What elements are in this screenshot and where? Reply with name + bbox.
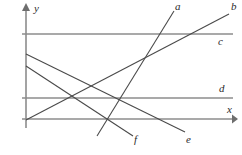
x-axis-label: x: [227, 104, 232, 115]
line-diagram-figure: y x a b c d e f: [0, 0, 242, 155]
line-label-d: d: [219, 83, 225, 94]
line-label-e: e: [186, 134, 191, 145]
y-axis-arrow-icon: [22, 3, 30, 11]
x-axis-arrow-icon: [232, 115, 238, 124]
line-label-a: a: [175, 1, 181, 12]
figure-canvas: [0, 0, 242, 155]
line-e: [26, 54, 185, 132]
line-label-b: b: [231, 1, 237, 12]
line-label-c: c: [218, 36, 223, 47]
line-f: [26, 66, 133, 136]
y-axis-label: y: [34, 3, 39, 14]
line-a: [97, 11, 174, 136]
line-label-f: f: [134, 134, 137, 145]
